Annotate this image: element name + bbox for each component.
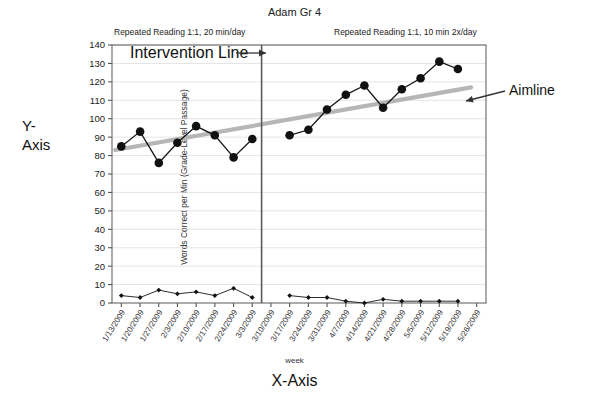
y-tick-label: 80 <box>94 150 105 161</box>
y-tick-label: 50 <box>94 205 105 216</box>
data-point-wcpm <box>211 131 220 140</box>
y-tick-label: 60 <box>94 187 105 198</box>
data-point-errors <box>194 290 199 295</box>
data-point-wcpm <box>248 135 257 144</box>
y-tick-label: 30 <box>94 242 105 253</box>
series-line <box>290 62 458 136</box>
gridlines <box>112 45 486 285</box>
y-tick-label: 130 <box>89 58 105 69</box>
data-point-wcpm <box>192 122 201 131</box>
data-point-errors <box>381 297 386 302</box>
data-point-errors <box>175 291 180 296</box>
data-point-wcpm <box>323 105 332 114</box>
data-point-errors <box>156 288 161 293</box>
y-tick-label: 70 <box>94 168 105 179</box>
data-point-wcpm <box>285 131 294 140</box>
data-point-wcpm <box>379 103 388 112</box>
y-tick-label: 0 <box>100 297 105 308</box>
data-point-errors <box>231 286 236 291</box>
y-tick-label: 40 <box>94 224 105 235</box>
x-axis-ticks: 1/13/20091/20/20091/27/20092/3/20092/10/… <box>101 303 483 343</box>
data-point-wcpm <box>454 65 463 74</box>
data-point-errors <box>250 295 255 300</box>
y-axis-ticks: 0102030405060708090100110120130140 <box>89 39 112 308</box>
data-series <box>117 57 462 305</box>
data-point-wcpm <box>173 138 182 147</box>
y-tick-label: 120 <box>89 76 105 87</box>
data-point-wcpm <box>398 85 407 94</box>
data-point-errors <box>325 295 330 300</box>
y-tick-label: 90 <box>94 132 105 143</box>
series-line <box>290 296 458 303</box>
data-point-wcpm <box>117 142 126 151</box>
callout-arrows <box>236 50 505 103</box>
data-point-errors <box>119 293 124 298</box>
y-tick-label: 10 <box>94 279 105 290</box>
chart-plot: 0102030405060708090100110120130140 1/13/… <box>0 0 589 410</box>
data-point-errors <box>306 295 311 300</box>
y-tick-label: 110 <box>90 95 105 106</box>
y-tick-label: 20 <box>94 261 105 272</box>
data-point-errors <box>287 293 292 298</box>
y-tick-label: 140 <box>89 39 105 50</box>
data-point-errors <box>212 293 217 298</box>
data-point-errors <box>362 301 367 306</box>
data-point-wcpm <box>136 127 145 136</box>
data-point-wcpm <box>416 74 425 83</box>
data-point-wcpm <box>435 57 444 66</box>
data-point-wcpm <box>229 153 238 162</box>
data-point-wcpm <box>360 81 369 90</box>
data-point-wcpm <box>342 91 351 100</box>
chart-page: Adam Gr 4 Repeated Reading 1:1, 20 min/d… <box>0 0 589 410</box>
data-point-wcpm <box>304 126 313 135</box>
y-tick-label: 100 <box>89 113 105 124</box>
data-point-errors <box>138 295 143 300</box>
data-point-wcpm <box>155 159 164 168</box>
